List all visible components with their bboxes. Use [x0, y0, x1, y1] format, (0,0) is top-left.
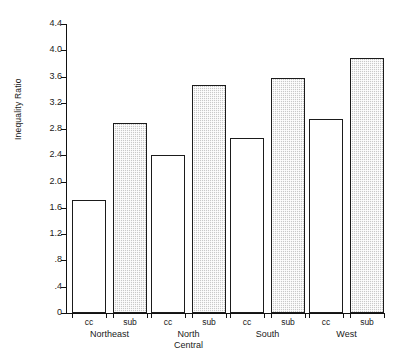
x-tick-mark: [230, 313, 231, 318]
bar-west-cc: [309, 119, 343, 313]
x-tick-mark: [309, 313, 310, 318]
y-tick-label: 0: [57, 307, 62, 317]
y-tick-label: 1.6: [49, 202, 62, 212]
bar-label-cc: cc: [85, 317, 94, 327]
y-tick-label: 2.8: [49, 123, 62, 133]
y-tick-label: .8: [54, 254, 62, 264]
x-tick-mark: [384, 313, 385, 318]
x-tick-mark: [151, 313, 152, 318]
y-tick-label: 2.4: [49, 149, 62, 159]
bar-label-sub: sub: [202, 317, 216, 327]
bar-northeast-sub: [113, 123, 147, 313]
group-label-northeast: Northeast: [90, 329, 129, 340]
x-tick-mark: [113, 313, 114, 318]
bar-south-cc: [230, 138, 264, 313]
plot-area: 4.44.03.63.22.82.42.01.61.2.8.40: [66, 24, 385, 313]
y-tick-label: 3.6: [49, 71, 62, 81]
x-tick-mark: [192, 313, 193, 318]
y-tick-label: 1.2: [49, 228, 62, 238]
x-tick-mark: [264, 313, 265, 318]
bar-north-central-sub: [192, 85, 226, 313]
y-tick-label: 2.0: [49, 176, 62, 186]
x-tick-mark: [72, 313, 73, 318]
y-axis-title: Inequality Ratio: [13, 20, 23, 140]
y-tick-label: 4.4: [49, 18, 62, 28]
x-tick-mark: [185, 313, 186, 318]
bar-label-cc: cc: [322, 317, 331, 327]
x-tick-mark: [147, 313, 148, 318]
bar-label-sub: sub: [281, 317, 295, 327]
y-tick-label: 4.0: [49, 44, 62, 54]
bar-label-cc: cc: [243, 317, 252, 327]
x-tick-mark: [106, 313, 107, 318]
bar-north-central-cc: [151, 155, 185, 313]
y-tick-label: .4: [54, 281, 62, 291]
x-tick-mark: [305, 313, 306, 318]
bar-northeast-cc: [72, 200, 106, 313]
group-label-north-central: NorthCentral: [174, 329, 203, 350]
bar-label-sub: sub: [360, 317, 374, 327]
x-tick-mark: [271, 313, 272, 318]
bar-label-cc: cc: [164, 317, 173, 327]
x-tick-mark: [343, 313, 344, 318]
group-label-south: South: [256, 329, 280, 340]
bar-label-sub: sub: [123, 317, 137, 327]
group-label-west: West: [336, 329, 356, 340]
bar-south-sub: [271, 78, 305, 313]
y-tick-label: 3.2: [49, 97, 62, 107]
bar-west-sub: [350, 58, 384, 313]
x-tick-mark: [226, 313, 227, 318]
bar-chart-figure: Inequality Ratio 4.44.03.63.22.82.42.01.…: [0, 0, 399, 350]
x-tick-mark: [350, 313, 351, 318]
